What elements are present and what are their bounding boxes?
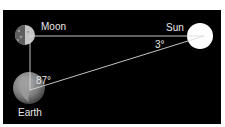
earth-sun-line bbox=[30, 36, 204, 90]
earth-label: Earth bbox=[18, 108, 42, 118]
moon-label: Moon bbox=[41, 22, 66, 32]
earth-angle-label: 87° bbox=[36, 76, 51, 86]
sun-label: Sun bbox=[166, 23, 184, 33]
sun-angle-label: 3° bbox=[155, 40, 165, 50]
moon-icon bbox=[15, 25, 35, 45]
